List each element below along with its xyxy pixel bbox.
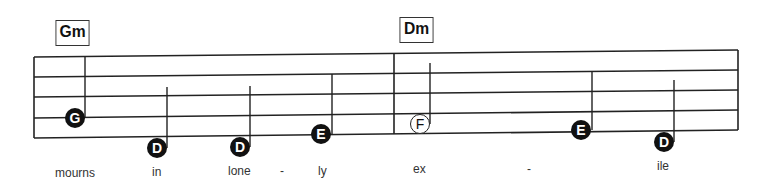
staff-line [34, 110, 738, 118]
chord-box-dm: Dm [399, 17, 433, 43]
lyric-syllable: ly [318, 164, 327, 178]
lyric-hyphen: - [527, 162, 531, 176]
note-head-e: E [571, 120, 591, 140]
lyric-hyphen: - [280, 164, 284, 178]
note-head-d: D [230, 137, 250, 157]
staff-line [34, 70, 738, 77]
note-head-d: D [147, 138, 167, 158]
note-head-g: G [65, 108, 85, 128]
lyric-syllable: in [152, 165, 161, 179]
staff-line [34, 50, 738, 57]
note-head-e: E [311, 124, 331, 144]
music-staff-figure: Gm Dm G D D E F E D mourns in lone - ly … [0, 0, 772, 195]
staff-line [34, 130, 738, 138]
lyric-syllable: mourns [55, 166, 95, 180]
lyric-syllable: lone [228, 164, 251, 178]
note-head-f-hollow: F [410, 114, 430, 134]
staff-line [34, 90, 738, 97]
lyric-syllable: ile [657, 159, 669, 173]
lyric-syllable: ex [413, 162, 426, 176]
note-head-d: D [654, 132, 674, 152]
chord-box-gm: Gm [55, 20, 89, 46]
